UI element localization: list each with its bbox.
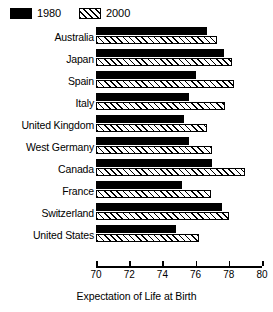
x-axis-tick-label: 78: [223, 270, 234, 280]
x-axis-tick: [162, 261, 164, 266]
category-label: France: [62, 186, 94, 197]
bar-group: [96, 181, 262, 201]
x-axis-tick-label: 72: [124, 270, 135, 280]
bar-group: [96, 71, 262, 91]
legend-solid-swatch-icon: [10, 8, 32, 19]
category-label: West Germany: [26, 142, 94, 153]
bar-2000: [96, 102, 225, 110]
bar-2000: [96, 58, 232, 66]
legend-label-1980: 1980: [37, 8, 61, 19]
chart-row: West Germany: [0, 136, 273, 158]
chart-row: Japan: [0, 48, 273, 70]
chart-legend: 1980 2000: [10, 5, 148, 21]
x-axis-tick-label: 76: [190, 270, 201, 280]
category-label: United Kingdom: [21, 120, 94, 131]
bar-2000: [96, 80, 234, 88]
category-label: Japan: [66, 54, 94, 65]
bar-group: [96, 203, 262, 223]
x-axis: 707274767880: [96, 266, 262, 268]
bar-1980: [96, 159, 212, 167]
x-axis-tick: [262, 261, 264, 266]
category-label: Spain: [68, 76, 94, 87]
bar-1980: [96, 137, 189, 145]
chart-row: Spain: [0, 70, 273, 92]
bar-1980: [96, 203, 222, 211]
bar-2000: [96, 168, 245, 176]
chart-row: France: [0, 180, 273, 202]
bar-2000: [96, 146, 212, 154]
x-axis-tick: [196, 261, 198, 266]
bar-1980: [96, 49, 224, 57]
bar-2000: [96, 190, 211, 198]
chart-row: United States: [0, 224, 273, 246]
legend-label-2000: 2000: [106, 8, 130, 19]
chart-row: Canada: [0, 158, 273, 180]
category-label: Australia: [54, 32, 94, 43]
x-axis-tick: [229, 261, 231, 266]
x-axis-title: Expectation of Life at Birth: [0, 291, 273, 302]
bar-group: [96, 225, 262, 245]
bar-1980: [96, 225, 176, 233]
legend-entry-1980: 1980: [10, 8, 61, 19]
chart-row: Switzerland: [0, 202, 273, 224]
x-axis-tick-label: 80: [256, 270, 267, 280]
chart-row: Italy: [0, 92, 273, 114]
bar-1980: [96, 181, 182, 189]
bar-2000: [96, 36, 217, 44]
chart-row: Australia: [0, 26, 273, 48]
bar-1980: [96, 93, 189, 101]
bar-1980: [96, 27, 207, 35]
category-label: Italy: [75, 98, 94, 109]
category-label: United States: [33, 230, 94, 241]
x-axis-tick-label: 70: [90, 270, 101, 280]
bar-group: [96, 137, 262, 157]
bar-group: [96, 93, 262, 113]
bar-2000: [96, 212, 229, 220]
category-label: Canada: [58, 164, 94, 175]
bar-group: [96, 159, 262, 179]
chart-row: United Kingdom: [0, 114, 273, 136]
bar-1980: [96, 115, 184, 123]
bar-group: [96, 115, 262, 135]
bar-group: [96, 49, 262, 69]
x-axis-tick-label: 74: [157, 270, 168, 280]
x-axis-tick: [96, 261, 98, 266]
bar-group: [96, 27, 262, 47]
legend-entry-2000: 2000: [79, 8, 130, 19]
bar-2000: [96, 124, 207, 132]
legend-hatched-swatch-icon: [79, 8, 101, 19]
x-axis-tick: [129, 261, 131, 266]
bar-2000: [96, 234, 199, 242]
category-label: Switzerland: [41, 208, 94, 219]
bar-1980: [96, 71, 196, 79]
chart-plot-area: AustraliaJapanSpainItalyUnited KingdomWe…: [0, 26, 273, 258]
